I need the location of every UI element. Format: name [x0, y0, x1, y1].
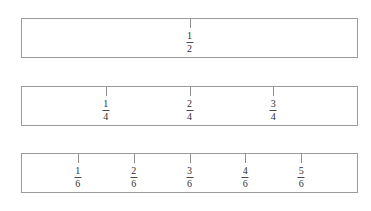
tick-mark-icon: [190, 19, 191, 28]
fraction-numerator: 2: [129, 166, 138, 177]
fraction-numerator: 3: [269, 99, 278, 110]
fraction-bars-diagram: 12 142434 1626364656: [0, 0, 371, 211]
fraction-label: 24: [185, 99, 194, 122]
fraction-numerator: 5: [297, 166, 306, 177]
tick-mark-icon: [106, 87, 107, 96]
fraction-label: 46: [241, 166, 250, 189]
fraction-denominator: 6: [297, 178, 306, 189]
fraction-denominator: 6: [241, 178, 250, 189]
fraction-label: 34: [269, 99, 278, 122]
fraction-numerator: 4: [241, 166, 250, 177]
fraction-label: 26: [129, 166, 138, 189]
fraction-label: 16: [73, 166, 82, 189]
fraction-bar-fourths: 142434: [21, 86, 358, 126]
tick-mark-icon: [134, 154, 135, 163]
fraction-label: 14: [101, 99, 110, 122]
fraction-denominator: 4: [101, 111, 110, 122]
fraction-denominator: 2: [185, 43, 194, 54]
tick-mark-icon: [190, 154, 191, 163]
fraction-label: 36: [185, 166, 194, 189]
tick-mark-icon: [190, 87, 191, 96]
tick-mark-icon: [245, 154, 246, 163]
fraction-label: 56: [297, 166, 306, 189]
tick-mark-icon: [273, 87, 274, 96]
fraction-denominator: 6: [129, 178, 138, 189]
tick-mark-icon: [301, 154, 302, 163]
fraction-numerator: 2: [185, 99, 194, 110]
fraction-label: 12: [185, 31, 194, 54]
fraction-denominator: 6: [185, 178, 194, 189]
fraction-denominator: 4: [185, 111, 194, 122]
fraction-denominator: 6: [73, 178, 82, 189]
fraction-numerator: 1: [73, 166, 82, 177]
fraction-numerator: 3: [185, 166, 194, 177]
fraction-denominator: 4: [269, 111, 278, 122]
fraction-numerator: 1: [101, 99, 110, 110]
fraction-bar-halves: 12: [21, 18, 358, 58]
fraction-bar-sixths: 1626364656: [21, 153, 358, 193]
tick-mark-icon: [78, 154, 79, 163]
fraction-numerator: 1: [185, 31, 194, 42]
